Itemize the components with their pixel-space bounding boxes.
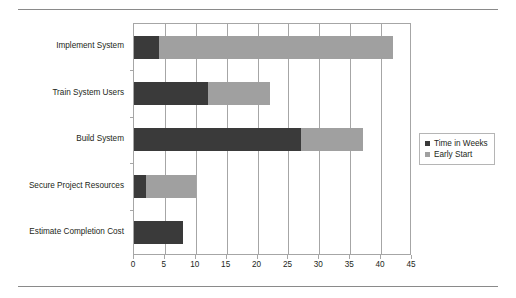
bar-row xyxy=(134,24,410,70)
x-axis-tick-label: 25 xyxy=(272,260,302,269)
x-axis-tick-label: 30 xyxy=(303,260,333,269)
chart-legend: Time in WeeksEarly Start xyxy=(419,133,495,165)
bar-segment-time-in-weeks xyxy=(134,221,183,244)
x-axis-tick-label: 5 xyxy=(149,260,179,269)
bar-segment-remainder xyxy=(208,82,270,105)
x-axis-tick xyxy=(195,255,196,259)
plot-area xyxy=(133,23,411,255)
x-axis-tick xyxy=(411,255,412,259)
y-axis-label-text: Train System Users xyxy=(52,87,129,99)
bar-track xyxy=(134,82,410,105)
bottom-divider-rule xyxy=(18,286,498,287)
y-axis-label: Estimate Completion Cost xyxy=(5,209,129,255)
bar-segment-remainder xyxy=(146,175,195,198)
y-axis-tick xyxy=(130,117,134,118)
x-axis-tick xyxy=(318,255,319,259)
x-axis-tick xyxy=(380,255,381,259)
y-axis-label: Build System xyxy=(5,116,129,162)
y-axis-tick xyxy=(130,70,134,71)
bar-segment-time-in-weeks xyxy=(134,82,208,105)
bar-segment-time-in-weeks xyxy=(134,128,301,151)
top-divider-rule xyxy=(18,9,498,10)
legend-label: Early Start xyxy=(434,149,472,160)
legend-item: Time in Weeks xyxy=(425,138,488,149)
legend-swatch-icon xyxy=(425,141,430,146)
x-axis-tick-label: 0 xyxy=(118,260,148,269)
bar-segment-time-in-weeks xyxy=(134,175,146,198)
bar-track xyxy=(134,128,410,151)
x-axis-tick xyxy=(164,255,165,259)
legend-item: Early Start xyxy=(425,149,488,160)
y-axis-category-labels: Estimate Completion CostSecure Project R… xyxy=(5,23,129,255)
x-axis-tick-label: 15 xyxy=(211,260,241,269)
bar-track xyxy=(134,36,410,59)
y-axis-label: Secure Project Resources xyxy=(5,162,129,208)
x-axis-tick xyxy=(257,255,258,259)
y-axis-tick xyxy=(130,163,134,164)
x-axis-tick-label: 10 xyxy=(180,260,210,269)
bar-segment-time-in-weeks xyxy=(134,36,159,59)
y-axis-label-text: Estimate Completion Cost xyxy=(29,226,129,238)
x-axis-tick-label: 35 xyxy=(334,260,364,269)
x-axis-tick-label: 40 xyxy=(365,260,395,269)
y-axis-label: Implement System xyxy=(5,23,129,69)
bar-track xyxy=(134,221,410,244)
y-axis-label-text: Implement System xyxy=(56,40,129,52)
x-axis-tick xyxy=(226,255,227,259)
x-axis-tick xyxy=(349,255,350,259)
y-axis-label-text: Build System xyxy=(76,133,129,145)
gantt-bar-chart: Estimate Completion CostSecure Project R… xyxy=(0,0,516,298)
bar-row xyxy=(134,70,410,116)
bar-segment-remainder xyxy=(159,36,394,59)
y-axis-label: Train System Users xyxy=(5,69,129,115)
y-axis-label-text: Secure Project Resources xyxy=(29,180,129,192)
legend-swatch-icon xyxy=(425,152,430,157)
bar-row xyxy=(134,210,410,256)
x-axis-tick-label: 20 xyxy=(242,260,272,269)
bar-row xyxy=(134,117,410,163)
y-axis-tick xyxy=(130,210,134,211)
x-axis-tick-label: 45 xyxy=(396,260,426,269)
bar-segment-remainder xyxy=(301,128,363,151)
x-axis-tick xyxy=(287,255,288,259)
bar-track xyxy=(134,175,410,198)
legend-label: Time in Weeks xyxy=(434,138,488,149)
bar-row xyxy=(134,163,410,209)
x-axis-tick xyxy=(133,255,134,259)
x-axis: 051015202530354045 xyxy=(133,255,411,279)
